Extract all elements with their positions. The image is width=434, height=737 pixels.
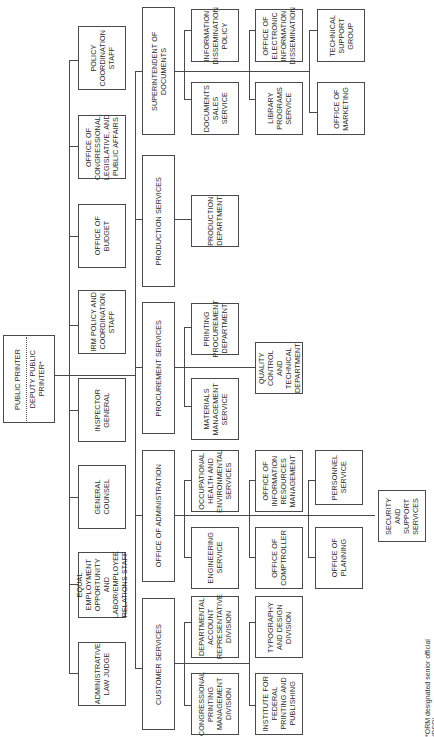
connector bbox=[69, 146, 78, 147]
staff-office-eeo: EQUAL EMPLOYMENT OPPORTUNITY AND LABOR/E… bbox=[78, 552, 126, 618]
dept-label: OFFICE OF PLANNING bbox=[330, 538, 348, 577]
connector bbox=[69, 325, 78, 326]
connector bbox=[135, 367, 142, 368]
public-printer-box: PUBLIC PRINTER DEPUTY PUBLIC PRINTER* bbox=[3, 335, 55, 423]
connector bbox=[184, 30, 191, 31]
dept-label: DOCUMENTS SALES SERVICE bbox=[202, 85, 229, 132]
dept-office-of-comptroller: OFFICE OF COMPTROLLER bbox=[255, 527, 303, 589]
connector bbox=[249, 30, 250, 100]
connector bbox=[308, 480, 315, 481]
connector bbox=[175, 663, 250, 664]
dept-label: OFFICE OF COMPTROLLER bbox=[270, 530, 288, 586]
connector bbox=[69, 60, 78, 61]
division-label: SUPERINTENDENT OF DOCUMENTS bbox=[150, 8, 168, 134]
connector bbox=[184, 557, 191, 558]
staff-office-label: ADMINISTRATIVE LAW JUDGE bbox=[93, 643, 111, 704]
dept-label: OFFICE OF ELECTRONIC INFORMATION DISSEMI… bbox=[261, 7, 297, 64]
connector bbox=[184, 99, 191, 100]
deputy-public-printer-label: DEPUTY PUBLIC PRINTER* bbox=[28, 350, 46, 408]
connector bbox=[69, 410, 78, 411]
connector bbox=[184, 622, 191, 623]
dept-label: PRODUCTION DEPARTMENT bbox=[206, 196, 224, 246]
staff-office-general-counsel: GENERAL COUNSEL bbox=[78, 465, 126, 529]
connector bbox=[309, 30, 317, 31]
division-label: PROCUREMENT SERVICES bbox=[154, 320, 163, 416]
dept-label: MATERIALS MANAGEMENT SERVICE bbox=[202, 383, 229, 436]
dept-office-of-irm: OFFICE OF INFORMATION RESOURCES MANAGEME… bbox=[255, 450, 303, 512]
dept-label: OFFICE OF MARKETING bbox=[332, 87, 350, 131]
dept-occupational-health: OCCUPATIONAL HEALTH AND ENVIRONMENTAL SE… bbox=[191, 450, 239, 512]
staff-office-label: POLICY COORDINATION STAFF bbox=[89, 30, 116, 87]
staff-office-label: IRM POLICY AND COORDINATION STAFF bbox=[89, 292, 116, 352]
connector bbox=[184, 30, 185, 100]
connector bbox=[308, 480, 309, 558]
dept-label: SECURITY AND SUPPORT SERVICES bbox=[384, 491, 420, 541]
connector bbox=[175, 71, 310, 72]
dept-office-of-planning: OFFICE OF PLANNING bbox=[315, 527, 363, 589]
dept-printing-procurement: PRINTING PROCUREMENT DEPARTMENT bbox=[191, 303, 239, 355]
dept-production-department: PRODUCTION DEPARTMENT bbox=[191, 195, 239, 247]
connector bbox=[184, 327, 185, 407]
connector bbox=[249, 480, 250, 558]
staff-spine bbox=[69, 60, 70, 674]
staff-office-irm-policy: IRM POLICY AND COORDINATION STAFF bbox=[78, 290, 126, 354]
connector bbox=[175, 515, 375, 516]
connector bbox=[135, 71, 142, 72]
staff-office-policy-coordination: POLICY COORDINATION STAFF bbox=[78, 26, 126, 90]
dept-documents-sales: DOCUMENTS SALES SERVICE bbox=[191, 82, 239, 135]
division-label: PRODUCTION SERVICES bbox=[154, 177, 163, 265]
division-customer-services: CUSTOMER SERVICES bbox=[142, 598, 175, 730]
division-label: OFFICE OF ADMINISTRATION bbox=[154, 464, 163, 567]
dept-label: ENGINEERING SERVICE bbox=[206, 532, 224, 583]
connector bbox=[135, 515, 142, 516]
dept-label: TYPOGRAPHY AND DESIGN DIVISION bbox=[266, 602, 293, 653]
dept-label: OFFICE OF INFORMATION RESOURCES MANAGEME… bbox=[261, 455, 297, 508]
connector bbox=[135, 219, 142, 220]
dept-label: DEPARTMENTAL ACCOUNT REPRESENTATIVE DIVI… bbox=[197, 594, 233, 659]
dept-engineering-service: ENGINEERING SERVICE bbox=[191, 527, 239, 589]
dept-institute-federal-printing: INSTITUTE FOR FEDERAL PRINTING AND PUBLI… bbox=[255, 673, 303, 735]
dept-label: CONGRESSIONAL PRINTING MANAGEMENT DIVISI… bbox=[197, 672, 233, 736]
dept-label: LIBRARY PROGRAMS SERVICE bbox=[266, 87, 293, 130]
division-office-of-administration: OFFICE OF ADMINISTRATION bbox=[142, 450, 175, 582]
staff-office-congressional-affairs: OFFICE OF CONGRESSIONAL, LEGISLATIVE, AN… bbox=[78, 115, 126, 179]
dept-quality-control: QUALITY CONTROL AND TECHNICAL DEPARTMENT bbox=[255, 342, 303, 394]
staff-office-budget: OFFICE OF BUDGET bbox=[78, 204, 126, 268]
division-label: CUSTOMER SERVICES bbox=[154, 624, 163, 705]
connector bbox=[69, 236, 78, 237]
dept-label: INSTITUTE FOR FEDERAL PRINTING AND PUBLI… bbox=[261, 676, 297, 732]
dept-library-programs: LIBRARY PROGRAMS SERVICE bbox=[255, 82, 303, 135]
dept-office-of-marketing: OFFICE OF MARKETING bbox=[317, 82, 365, 135]
dept-label: PERSONNEL SERVICE bbox=[330, 455, 348, 500]
division-production-services: PRODUCTION SERVICES bbox=[142, 155, 175, 287]
connector bbox=[135, 668, 142, 669]
connector bbox=[184, 327, 191, 328]
connector bbox=[184, 705, 191, 706]
connector bbox=[55, 375, 70, 376]
staff-office-label: OFFICE OF CONGRESSIONAL, LEGISLATIVE, AN… bbox=[84, 114, 120, 180]
dept-label: TECHNICAL SUPPORT GROUP bbox=[328, 15, 355, 57]
dept-congressional-printing-management: CONGRESSIONAL PRINTING MANAGEMENT DIVISI… bbox=[191, 673, 239, 735]
dept-security-support: SECURITY AND SUPPORT SERVICES bbox=[378, 490, 426, 542]
division-superintendent-of-documents: SUPERINTENDENT OF DOCUMENTS bbox=[142, 7, 175, 135]
connector bbox=[249, 622, 250, 706]
staff-office-label: INSPECTOR GENERAL bbox=[93, 389, 111, 432]
dept-technical-support-group: TECHNICAL SUPPORT GROUP bbox=[317, 9, 365, 62]
staff-office-inspector-general: INSPECTOR GENERAL bbox=[78, 378, 126, 442]
connector bbox=[184, 406, 191, 407]
staff-office-administrative-law-judge: ADMINISTRATIVE LAW JUDGE bbox=[78, 642, 126, 706]
dept-electronic-info-dissemination: OFFICE OF ELECTRONIC INFORMATION DISSEMI… bbox=[255, 9, 303, 62]
dept-label: INFORMATION DISSEMINATION POLICY bbox=[202, 7, 229, 64]
dept-label: PRINTING PROCUREMENT DEPARTMENT bbox=[202, 300, 229, 357]
footnote: *ORM designated senior official (DSO). bbox=[424, 620, 434, 737]
connector bbox=[184, 480, 185, 558]
division-spine bbox=[135, 71, 136, 669]
connector bbox=[70, 375, 136, 376]
dept-label: OCCUPATIONAL HEALTH AND ENVIRONMENTAL SE… bbox=[197, 450, 233, 513]
public-printer-label: PUBLIC PRINTER bbox=[13, 349, 22, 410]
division-procurement-services: PROCUREMENT SERVICES bbox=[142, 302, 175, 434]
connector bbox=[69, 497, 78, 498]
dotted-separator bbox=[26, 337, 27, 421]
connector bbox=[175, 219, 191, 220]
dept-personnel-service: PERSONNEL SERVICE bbox=[315, 450, 363, 505]
